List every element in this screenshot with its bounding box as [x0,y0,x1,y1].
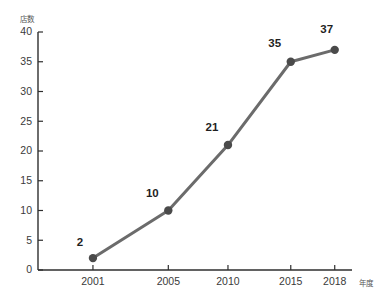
x-axis-title: 年度 [359,278,374,288]
data-point-label: 10 [146,187,159,199]
x-tick-label: 2001 [81,275,105,287]
y-tick-label: 5 [26,234,32,246]
data-point-marker [287,58,295,66]
x-tick-label: 2010 [216,275,240,287]
data-point-label: 2 [77,236,83,248]
y-tick-label: 25 [20,115,32,127]
data-point-marker [89,254,97,262]
x-axis-ticks: 20012005201020152018 [81,265,346,287]
data-point-markers [89,46,339,263]
data-point-marker [331,46,339,54]
y-tick-label: 35 [20,55,32,67]
y-axis-title: 店数 [20,14,35,24]
data-point-label: 37 [320,23,333,35]
y-tick-label: 40 [20,25,32,37]
y-tick-label: 20 [20,144,32,156]
x-tick-label: 2018 [323,275,347,287]
data-point-marker [164,206,172,214]
y-axis-ticks: 0510152025303540 [20,25,43,275]
y-tick-label: 10 [20,204,32,216]
data-point-label: 35 [268,37,281,49]
data-point-marker [224,141,232,149]
x-tick-label: 2015 [279,275,303,287]
line-chart: 店数 0510152025303540 20012005201020152018… [0,0,383,302]
y-tick-label: 0 [26,263,32,275]
y-tick-label: 15 [20,174,32,186]
y-tick-label: 30 [20,85,32,97]
data-point-labels: 210213537 [77,23,333,248]
x-tick-label: 2005 [157,275,181,287]
series-line-store-count [93,50,335,258]
chart-canvas: 店数 0510152025303540 20012005201020152018… [0,0,383,302]
data-point-label: 21 [206,121,219,133]
